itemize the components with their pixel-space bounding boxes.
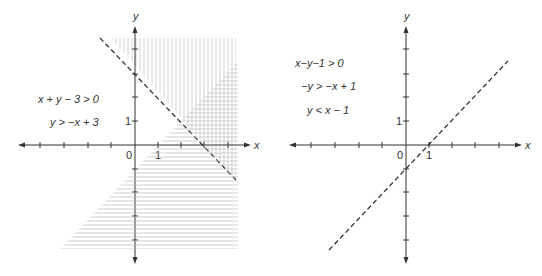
- right-plot: y x 0 1 1 x−y−1 > 0 −y > −x + 1 y < x − …: [50, 10, 531, 264]
- left-equation-1: x + y − 3 > 0: [37, 93, 100, 105]
- right-origin-label: 0: [397, 149, 403, 161]
- left-shaded-region: [104, 38, 236, 190]
- left-y-tick-label-1: 1: [125, 115, 131, 127]
- left-x-arrow-left-icon: [18, 143, 25, 148]
- right-x-axis-label: x: [524, 139, 531, 151]
- right-y-arrow-down-icon: [404, 257, 409, 264]
- left-x-axis-label: x: [253, 139, 260, 151]
- left-x-tick-label-1: 1: [155, 149, 161, 161]
- figure: y x 0 1 1 x + y − 3 > 0 y > −x + 3: [0, 0, 542, 276]
- left-y-arrow-up-icon: [133, 26, 138, 33]
- left-equation-2: y > −x + 3: [49, 116, 99, 128]
- left-x-axis: [20, 142, 248, 148]
- left-y-axis-label: y: [132, 10, 140, 22]
- right-equation-1: x−y−1 > 0: [294, 57, 345, 69]
- left-y-arrow-down-icon: [133, 257, 138, 264]
- right-x-tick-label-1: 1: [426, 149, 432, 161]
- right-x-arrow-left-icon: [289, 143, 296, 148]
- right-y-tick-label-1: 1: [396, 115, 402, 127]
- left-origin-label: 0: [126, 149, 132, 161]
- left-x-arrow-right-icon: [244, 143, 251, 148]
- right-y-arrow-up-icon: [404, 26, 409, 33]
- right-x-arrow-right-icon: [515, 143, 522, 148]
- right-x-axis: [291, 142, 519, 148]
- right-equation-3: y < x − 1: [306, 104, 349, 116]
- right-equation-2: −y > −x + 1: [301, 80, 356, 92]
- right-y-axis-label: y: [403, 10, 411, 22]
